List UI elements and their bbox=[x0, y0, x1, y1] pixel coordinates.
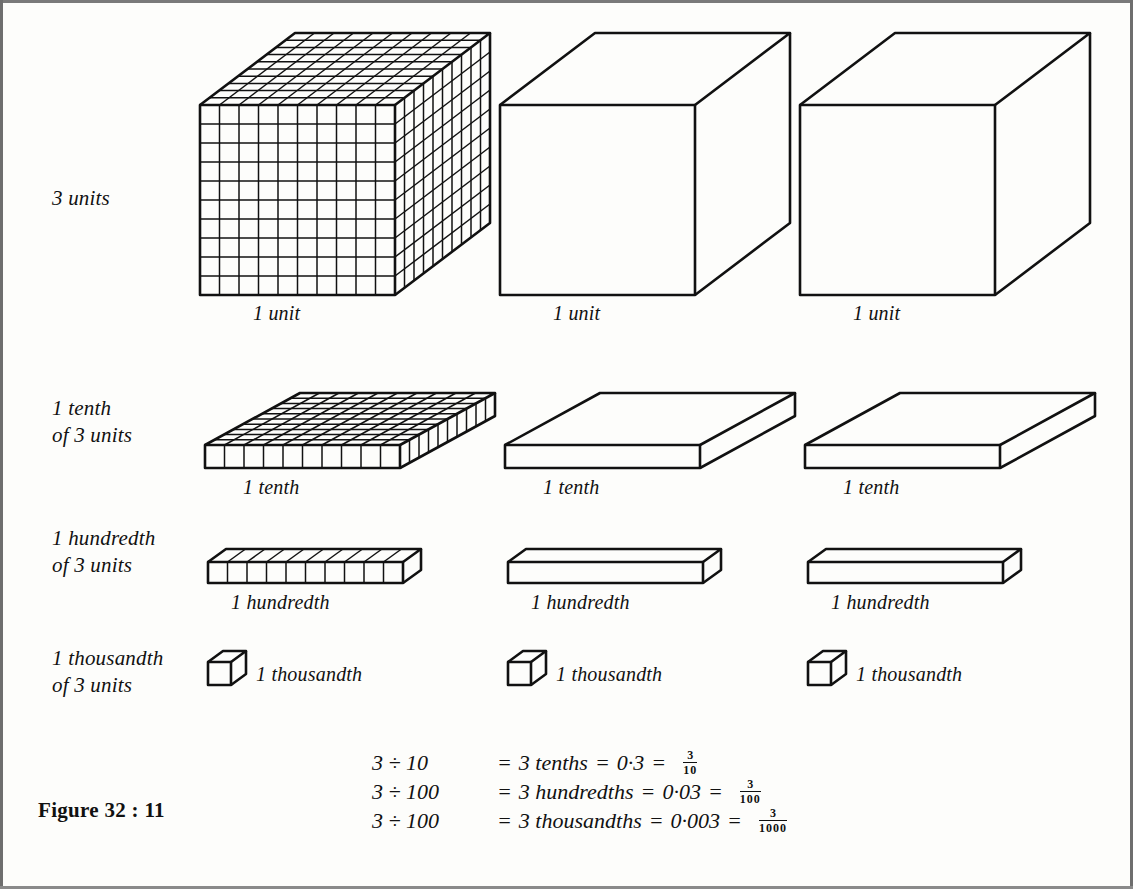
caption-unit-2: 1 unit bbox=[553, 302, 600, 325]
equation-0-fraction: 3 10 bbox=[683, 749, 697, 776]
figure-number-label: Figure 32 : 11 bbox=[38, 798, 165, 823]
equation-0-words: 3 tenths bbox=[519, 750, 588, 776]
caption-unit-1: 1 unit bbox=[253, 302, 300, 325]
equation-2-fraction-numerator: 3 bbox=[770, 807, 776, 820]
equation-2-words: 3 thousandths bbox=[519, 808, 642, 834]
equation-0-decimal: 0·3 bbox=[617, 750, 645, 776]
equation-2-equals-2: = bbox=[642, 808, 671, 834]
row-label-tenths: 1 tenth of 3 units bbox=[52, 395, 132, 449]
equation-1-lhs: 3 ÷ 100 bbox=[372, 779, 490, 805]
caption-tenth-3: 1 tenth bbox=[843, 476, 899, 499]
equation-0-lhs: 3 ÷ 10 bbox=[372, 750, 490, 776]
thousandth-cube-2 bbox=[508, 651, 546, 685]
unit-cube-3-plain bbox=[800, 33, 1090, 295]
equation-2-lhs: 3 ÷ 100 bbox=[372, 808, 490, 834]
caption-tenth-1: 1 tenth bbox=[243, 476, 299, 499]
caption-thousandth-1: 1 thousandth bbox=[256, 663, 362, 686]
equation-1-fraction-denominator: 100 bbox=[740, 791, 761, 805]
caption-hundredth-1: 1 hundredth bbox=[231, 591, 330, 614]
figure-page: 3 units 1 tenth of 3 units 1 hundredth o… bbox=[0, 0, 1133, 889]
unit-cube-1-gridded bbox=[200, 33, 490, 295]
equation-2-decimal: 0·003 bbox=[671, 808, 721, 834]
caption-unit-3: 1 unit bbox=[853, 302, 900, 325]
row-label-units: 3 units bbox=[52, 185, 110, 212]
equation-0-equals-2: = bbox=[588, 750, 617, 776]
equation-1-fraction: 3 100 bbox=[740, 778, 761, 805]
caption-thousandth-2: 1 thousandth bbox=[556, 663, 662, 686]
tenth-slab-1-gridded bbox=[205, 393, 495, 468]
tenth-slab-2-plain bbox=[505, 393, 795, 468]
equation-0-fraction-numerator: 3 bbox=[687, 749, 693, 762]
tenth-slab-3-plain bbox=[805, 393, 1095, 468]
row-label-thousandths: 1 thousandth of 3 units bbox=[52, 645, 164, 699]
unit-cube-2-plain bbox=[500, 33, 790, 295]
equation-1-equals-1: = bbox=[490, 779, 519, 805]
equation-0-equals-3: = bbox=[644, 750, 673, 776]
hundredth-rod-3-plain bbox=[808, 549, 1021, 583]
caption-thousandth-3: 1 thousandth bbox=[856, 663, 962, 686]
equation-row-thousandths: 3 ÷ 100 = 3 thousandths = 0·003 = 3 1000 bbox=[372, 806, 787, 835]
hundredth-rod-2-plain bbox=[508, 549, 721, 583]
equation-2-fraction: 3 1000 bbox=[759, 807, 787, 834]
caption-hundredth-2: 1 hundredth bbox=[531, 591, 630, 614]
page-top-rule bbox=[0, 0, 1133, 3]
equation-1-equals-3: = bbox=[701, 779, 730, 805]
equation-1-words: 3 hundredths bbox=[519, 779, 634, 805]
caption-hundredth-3: 1 hundredth bbox=[831, 591, 930, 614]
equation-2-fraction-denominator: 1000 bbox=[759, 820, 787, 834]
equation-1-equals-2: = bbox=[634, 779, 663, 805]
hundredth-rod-1-gridded bbox=[208, 549, 421, 583]
equation-2-equals-3: = bbox=[720, 808, 749, 834]
equation-row-hundredths: 3 ÷ 100 = 3 hundredths = 0·03 = 3 100 bbox=[372, 777, 787, 806]
equation-1-decimal: 0·03 bbox=[662, 779, 701, 805]
caption-tenth-2: 1 tenth bbox=[543, 476, 599, 499]
page-left-edge-rule bbox=[0, 0, 3, 889]
thousandth-cube-1 bbox=[208, 651, 246, 685]
equation-0-equals-1: = bbox=[490, 750, 519, 776]
equation-0-fraction-denominator: 10 bbox=[683, 762, 697, 776]
equation-row-tenths: 3 ÷ 10 = 3 tenths = 0·3 = 3 10 bbox=[372, 748, 787, 777]
thousandth-cube-3 bbox=[808, 651, 846, 685]
equation-2-equals-1: = bbox=[490, 808, 519, 834]
equation-1-fraction-numerator: 3 bbox=[747, 778, 753, 791]
equations-block: 3 ÷ 10 = 3 tenths = 0·3 = 3 10 3 ÷ 100 =… bbox=[372, 748, 787, 835]
row-label-hundredths: 1 hundredth of 3 units bbox=[52, 525, 156, 579]
